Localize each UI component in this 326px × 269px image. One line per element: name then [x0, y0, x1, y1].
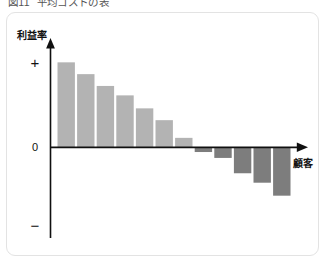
bar-series — [58, 62, 291, 195]
arrow-up-icon — [46, 38, 55, 49]
y-axis-label: 利益率 — [17, 29, 47, 41]
x-axis-label: 顧客 — [293, 157, 314, 169]
arrow-right-icon — [297, 143, 308, 152]
bar-11 — [254, 147, 271, 182]
bar-1 — [58, 62, 75, 147]
bar-10 — [234, 147, 251, 173]
bar-7 — [175, 138, 192, 147]
y-tick-positive: + — [31, 54, 40, 71]
figure-root: 図11平均コストの表 + 0 − 利益率 顧客 — [0, 0, 326, 269]
bar-chart-svg: + 0 − 利益率 顧客 — [0, 0, 326, 269]
y-tick-negative: − — [31, 217, 40, 234]
chart-plot-area: + 0 − 利益率 顧客 — [0, 0, 326, 269]
bar-12 — [273, 147, 290, 195]
bar-2 — [77, 74, 94, 147]
y-tick-zero: 0 — [32, 141, 38, 153]
bar-9 — [214, 147, 231, 158]
bar-4 — [116, 95, 133, 147]
bar-5 — [136, 108, 153, 147]
bar-3 — [97, 86, 114, 147]
bar-6 — [156, 120, 173, 147]
